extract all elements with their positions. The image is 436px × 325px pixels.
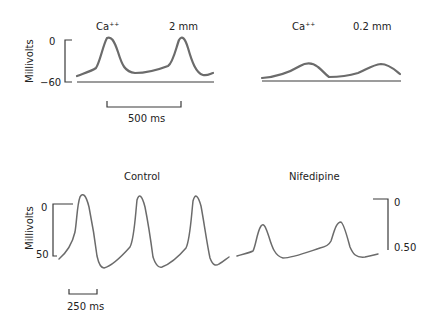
panel-control: Control Millivolts 0 50 250 ms [24,171,229,312]
action-potential-trace [262,63,400,78]
panel-title: Nifedipine [289,171,340,182]
time-scale-bar [107,101,181,107]
time-scale-bar [69,289,97,294]
voltage-scale-bracket [65,40,72,82]
panel-top-right: Ca++ 0.2 mm [262,20,401,81]
y-tick-0: 0 [394,197,400,208]
control-trace [59,195,229,268]
concentration-label: 0.2 mm [353,21,392,32]
voltage-scale-bracket [373,199,388,250]
figure: Ca++ 2 mm Millivolts 0 −60 500 ms Ca++ 0… [0,0,436,325]
time-scale-label: 250 ms [67,301,104,312]
concentration-label: 2 mm [169,21,198,32]
y-axis-label: Millivolts [24,39,35,83]
panel-top-left: Ca++ 2 mm Millivolts 0 −60 500 ms [24,20,214,124]
y-tick-0-50: 0.50 [394,242,416,253]
time-scale-label: 500 ms [128,113,165,124]
y-tick-0: 0 [49,36,55,47]
panel-title: Control [124,171,160,182]
action-potential-trace [77,38,213,76]
y-tick-minus60: −60 [40,77,61,88]
nifedipine-trace [237,222,378,258]
ion-label: Ca++ [292,20,315,32]
y-axis-label: Millivolts [24,206,35,250]
voltage-scale-bracket [53,204,73,256]
panel-nifedipine: Nifedipine 0 0.50 [237,171,416,258]
y-tick-0: 0 [41,202,47,213]
ion-label: Ca++ [96,20,119,32]
y-tick-50: 50 [36,249,49,260]
